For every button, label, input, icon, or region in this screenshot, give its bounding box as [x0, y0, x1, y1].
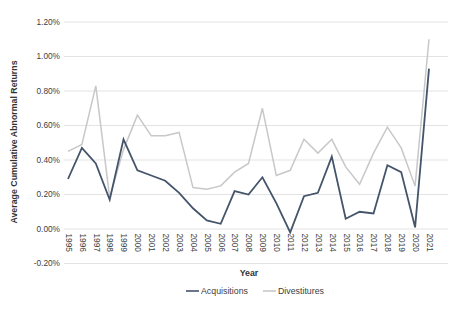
x-axis-tick-labels: 1995199619971998199920002001200220032004…: [64, 234, 435, 253]
x-tick-label: 2001: [147, 234, 157, 253]
x-tick-label: 2016: [355, 234, 365, 253]
x-tick-label: 1996: [78, 234, 88, 253]
x-tick-label: 1998: [105, 234, 115, 253]
x-tick-label: 2017: [369, 234, 379, 253]
x-tick-label: 2006: [217, 234, 227, 253]
legend-label-divestitures: Divestitures: [278, 286, 325, 296]
x-tick-label: 1999: [119, 234, 129, 253]
y-tick-label: 0.60%: [36, 120, 60, 130]
x-tick-label: 2004: [189, 234, 199, 253]
x-tick-label: 1997: [92, 234, 102, 253]
x-tick-label: 2008: [244, 234, 254, 253]
x-tick-label: 2012: [300, 234, 310, 253]
y-tick-label: 1.20%: [36, 17, 60, 27]
x-tick-label: 2010: [272, 234, 282, 253]
x-tick-label: 2003: [175, 234, 185, 253]
x-axis-title: Year: [240, 268, 259, 278]
y-tick-label: -0.20%: [34, 258, 61, 268]
y-tick-label: 0.40%: [36, 155, 60, 165]
chart-canvas: -0.20%0.00%0.20%0.40%0.60%0.80%1.00%1.20…: [0, 0, 452, 310]
legend-label-acquisitions: Acquisitions: [201, 286, 249, 296]
x-tick-label: 1995: [64, 234, 74, 253]
y-axis-tick-labels: -0.20%0.00%0.20%0.40%0.60%0.80%1.00%1.20…: [34, 17, 61, 269]
series-lines: [68, 39, 429, 232]
gridlines: [64, 22, 448, 264]
x-tick-label: 2018: [383, 234, 393, 253]
x-tick-label: 2020: [411, 234, 421, 253]
y-tick-label: 0.00%: [36, 224, 60, 234]
y-axis-title: Average Cumulative Abnormal Returns: [9, 60, 19, 223]
line-chart-figure: -0.20%0.00%0.20%0.40%0.60%0.80%1.00%1.20…: [0, 0, 452, 310]
y-tick-label: 1.00%: [36, 51, 60, 61]
x-tick-label: 2002: [161, 234, 171, 253]
x-tick-label: 2000: [133, 234, 143, 253]
x-tick-label: 2015: [342, 234, 352, 253]
x-tick-label: 2013: [314, 234, 324, 253]
x-tick-label: 2011: [286, 234, 296, 252]
x-tick-label: 2019: [397, 234, 407, 253]
series-line-divestitures: [68, 39, 429, 198]
y-tick-label: 0.80%: [36, 86, 60, 96]
x-tick-label: 2007: [230, 234, 240, 253]
legend: Acquisitions Divestitures: [186, 286, 325, 296]
x-tick-label: 2014: [328, 234, 338, 253]
x-tick-label: 2009: [258, 234, 268, 253]
x-tick-label: 2005: [203, 234, 213, 253]
x-tick-label: 2021: [425, 234, 435, 253]
y-tick-label: 0.20%: [36, 189, 60, 199]
